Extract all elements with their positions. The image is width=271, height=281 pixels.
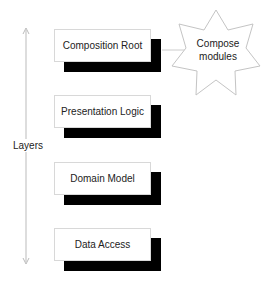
layer-domain-model: Domain Model (54, 162, 151, 195)
callout-line-1: Compose (192, 37, 244, 50)
layer-box: Presentation Logic (54, 95, 151, 128)
layer-diagram: Layers Composition Root Presentation Log… (0, 0, 271, 281)
compose-modules-callout: Compose modules (192, 37, 244, 63)
layers-axis-label: Layers (13, 139, 43, 152)
layer-box: Data Access (54, 228, 151, 261)
layer-box: Composition Root (54, 29, 151, 62)
layer-data-access: Data Access (54, 228, 151, 261)
layer-box: Domain Model (54, 162, 151, 195)
layer-composition-root: Composition Root (54, 29, 151, 62)
callout-line-2: modules (192, 50, 244, 63)
layer-presentation-logic: Presentation Logic (54, 95, 151, 128)
